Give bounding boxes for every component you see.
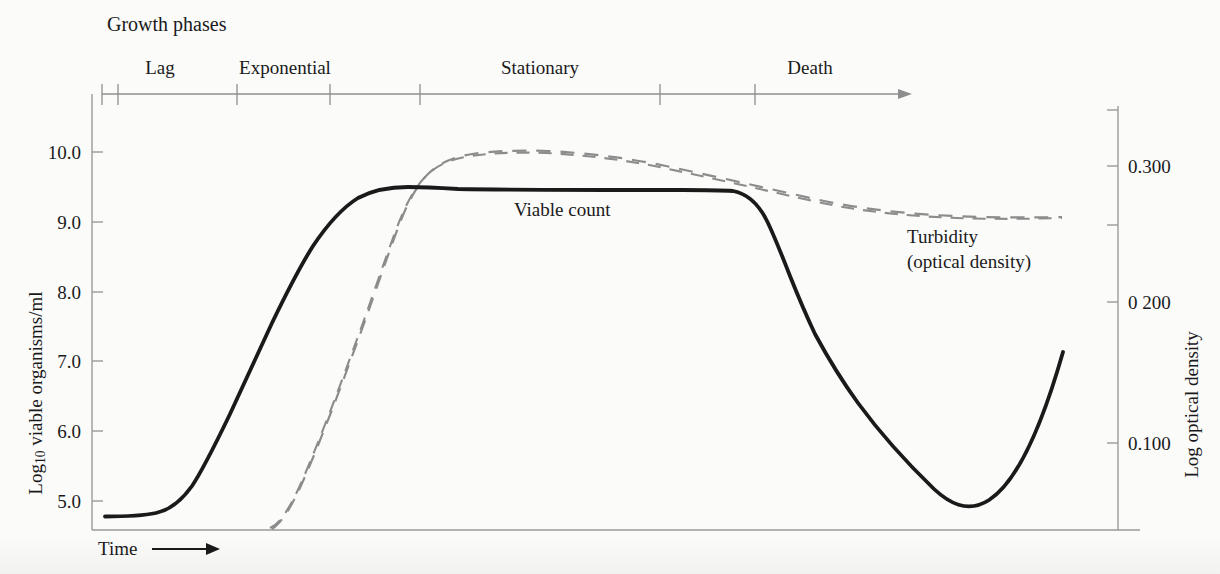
time-axis-label: Time [98, 539, 137, 558]
unused-path-9 [105, 188, 1013, 520]
y-tick-label-10: 10.0 [17, 143, 81, 162]
y-tick-label-0300: 0.300 [1128, 157, 1171, 176]
unused-path-8 [105, 188, 1000, 522]
right-axis-title: Log optical density [1182, 300, 1201, 510]
growth-curve-figure: Growth phases Lag Exponential Stationary… [0, 0, 1220, 574]
left-axis-title-prefix: Log [25, 464, 46, 495]
time-arrow-icon [152, 543, 220, 555]
unused-path-4 [105, 189, 980, 551]
unused-path-6 [105, 188, 1025, 517]
unused-path-15 [105, 187, 978, 517]
phase-label-stationary: Stationary [450, 58, 630, 77]
unused-path-14 [105, 187, 1000, 526]
turbidity-label-line1: Turbidity [907, 226, 978, 247]
phase-axis [102, 84, 912, 105]
unused-path-12 [105, 187, 992, 536]
turbidity-curve-visible [272, 151, 1062, 529]
viable-count-label: Viable count [514, 200, 610, 219]
y-tick-label-0200: 0 200 [1128, 293, 1171, 312]
left-axis-title-subscript: 10 [33, 450, 48, 464]
unused-path-5 [105, 188, 1030, 560]
growth-phases-title: Growth phases [107, 14, 226, 34]
y-tick-label-9: 9.0 [17, 213, 81, 232]
left-axis-title-suffix: viable organisms/ml [25, 291, 46, 450]
right-axis-ticks [1107, 110, 1118, 443]
turbidity-label: Turbidity (optical density) [907, 224, 1031, 274]
phase-label-lag: Lag [100, 58, 220, 77]
unused-path-13 [105, 187, 998, 540]
chart-canvas [0, 0, 1220, 574]
unused-path-3 [105, 189, 985, 548]
phase-label-exponential: Exponential [210, 58, 360, 77]
y-tick-label-0100: 0.100 [1128, 434, 1171, 453]
turbidity-curve [270, 153, 1062, 528]
phase-label-death: Death [740, 58, 880, 77]
turbidity-label-line2: (optical density) [907, 251, 1031, 272]
left-axis-ticks [92, 152, 103, 501]
unused-path-10 [105, 188, 1018, 532]
left-axis-title: Log10 viable organisms/ml [26, 283, 48, 503]
